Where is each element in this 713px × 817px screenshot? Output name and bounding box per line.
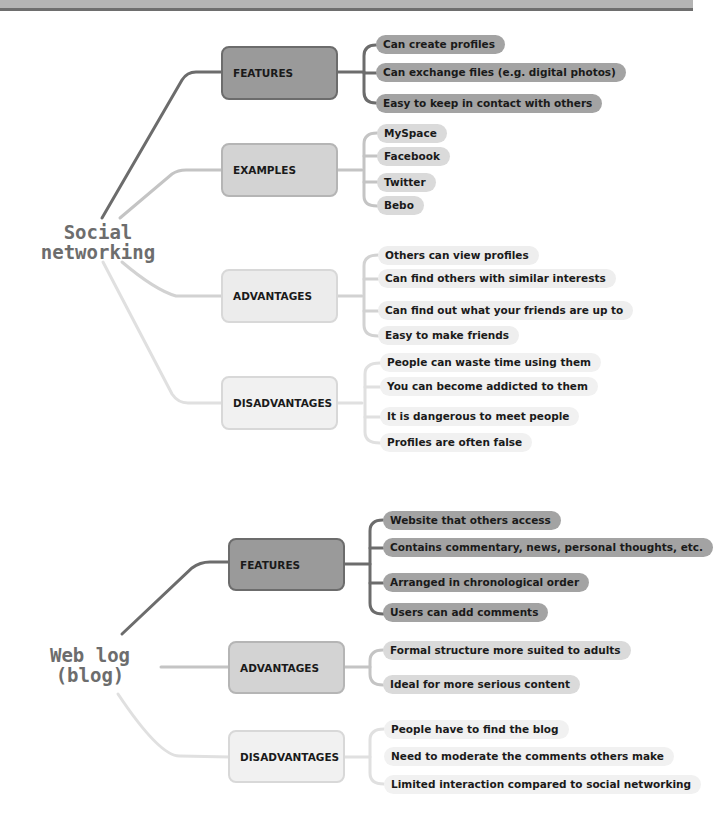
- leaf-item: Website that others access: [383, 511, 561, 530]
- leaf-item: Profiles are often false: [380, 433, 532, 452]
- leaf-item: Can find others with similar interests: [378, 269, 616, 288]
- leaf-item: Can create profiles: [376, 35, 505, 54]
- leaf-item: Ideal for more serious content: [383, 675, 580, 694]
- leaf-item: Formal structure more suited to adults: [383, 641, 631, 660]
- leaf-item: Need to moderate the comments others mak…: [384, 747, 674, 766]
- category-blog-advantages: ADVANTAGES: [228, 641, 345, 694]
- leaf-item: You can become addicted to them: [380, 377, 598, 396]
- category-label: ADVANTAGES: [240, 662, 319, 674]
- root-line-2: networking: [18, 242, 178, 262]
- leaf-item: MySpace: [377, 124, 447, 143]
- leaf-item: Arranged in chronological order: [383, 573, 589, 592]
- leaf-item: People have to find the blog: [384, 720, 569, 739]
- leaf-item: Facebook: [377, 147, 450, 166]
- leaf-item: Bebo: [377, 196, 424, 215]
- category-label: FEATURES: [240, 559, 300, 571]
- category-blog-features: FEATURES: [228, 538, 345, 591]
- category-label: EXAMPLES: [233, 164, 296, 176]
- leaf-item: People can waste time using them: [380, 353, 601, 372]
- leaf-item: Easy to make friends: [378, 326, 519, 345]
- root-node-web-log: Web log (blog): [20, 645, 160, 685]
- category-blog-disadvantages: DISADVANTAGES: [228, 730, 345, 783]
- root-line-2: (blog): [20, 665, 160, 685]
- root-node-social-networking: Social networking: [18, 222, 178, 262]
- leaf-item: Others can view profiles: [378, 246, 539, 265]
- category-label: DISADVANTAGES: [233, 397, 332, 409]
- leaf-item: It is dangerous to meet people: [380, 407, 579, 426]
- leaf-item: Contains commentary, news, personal thou…: [383, 538, 713, 557]
- category-label: ADVANTAGES: [233, 290, 312, 302]
- leaf-item: Users can add comments: [383, 603, 548, 622]
- category-social-advantages: ADVANTAGES: [221, 269, 338, 323]
- leaf-item: Twitter: [377, 173, 436, 192]
- category-label: DISADVANTAGES: [240, 751, 339, 763]
- leaf-item: Can exchange files (e.g. digital photos): [376, 63, 626, 82]
- leaf-item: Easy to keep in contact with others: [376, 94, 602, 113]
- category-social-disadvantages: DISADVANTAGES: [221, 376, 338, 430]
- category-social-features: FEATURES: [221, 46, 338, 100]
- category-label: FEATURES: [233, 67, 293, 79]
- category-social-examples: EXAMPLES: [221, 143, 338, 197]
- root-line-1: Web log: [20, 645, 160, 665]
- root-line-1: Social: [18, 222, 178, 242]
- leaf-item: Can find out what your friends are up to: [378, 301, 633, 320]
- leaf-item: Limited interaction compared to social n…: [384, 775, 701, 794]
